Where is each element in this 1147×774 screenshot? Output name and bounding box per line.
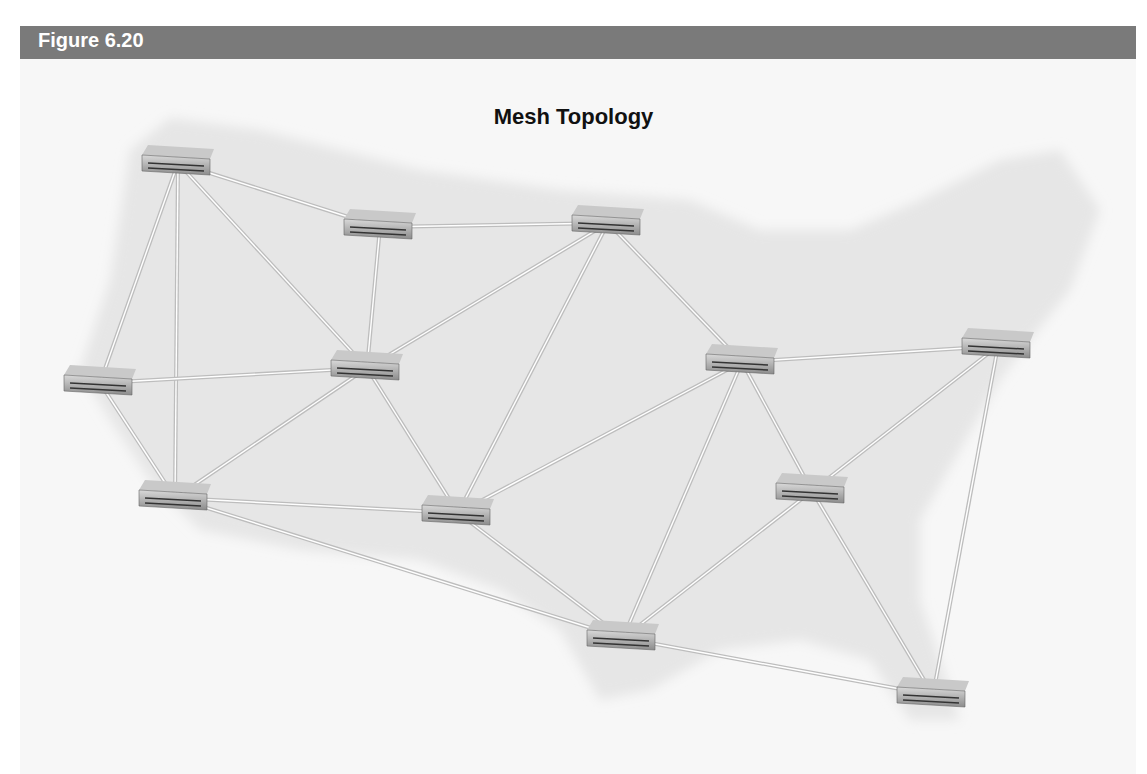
network-switch-icon xyxy=(344,209,416,239)
network-switch-icon xyxy=(776,473,848,503)
diagram-title: Mesh Topology xyxy=(0,104,1147,130)
network-switch-icon xyxy=(587,620,659,650)
network-switch-icon xyxy=(572,205,644,235)
network-switch-icon xyxy=(706,344,778,374)
network-switch-icon xyxy=(897,677,969,707)
network-switch-icon xyxy=(142,145,214,175)
network-switch-icon xyxy=(422,495,494,525)
network-switch-icon xyxy=(331,350,403,380)
network-switch-icon xyxy=(64,365,136,395)
network-switch-icon xyxy=(139,480,211,510)
network-switch-icon xyxy=(962,328,1034,358)
